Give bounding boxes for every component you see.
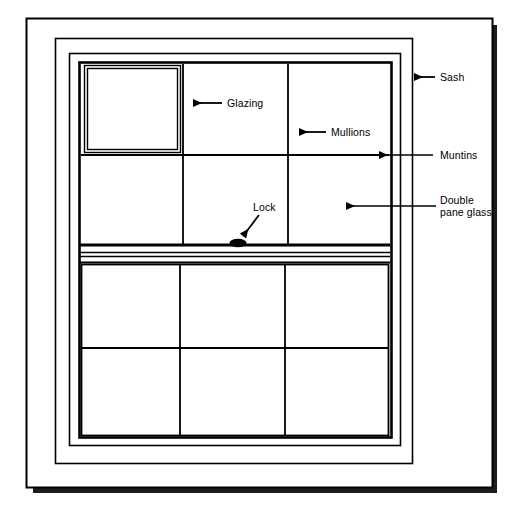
lock-hardware[interactable] [230,239,247,247]
label-lock: Lock [253,201,276,214]
label-double-pane-glass-line1: Double [440,194,474,207]
label-mullions: Mullions [331,126,370,139]
window-diagram-canvas: Sash Glazing Mullions Muntins Double pan… [0,0,525,523]
label-muntins: Muntins [440,149,477,162]
label-double-pane-glass-line2: pane glass [440,206,492,219]
label-sash: Sash [440,71,464,84]
label-glazing: Glazing [227,97,263,110]
